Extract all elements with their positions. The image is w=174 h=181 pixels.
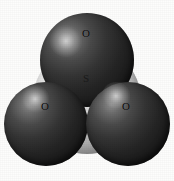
molecular-model-figure: S O O O	[0, 0, 174, 181]
atom-oxygen-lower-left	[4, 82, 88, 166]
molecule-scene: S O O O	[0, 0, 174, 181]
atom-oxygen-lower-right	[86, 82, 170, 166]
